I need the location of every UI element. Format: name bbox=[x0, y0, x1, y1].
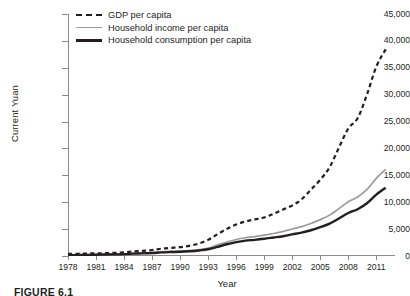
series-line-2 bbox=[68, 169, 386, 255]
series-line-1 bbox=[68, 49, 386, 254]
legend-item-label: Household income per capita bbox=[108, 23, 228, 33]
legend-item-label: GDP per capita bbox=[108, 10, 171, 20]
legend-swatch-icon bbox=[76, 22, 102, 34]
x-tick-label: 2011 bbox=[356, 262, 396, 272]
plot-area bbox=[68, 14, 395, 256]
x-axis-title-text: Year bbox=[217, 278, 236, 289]
chart-lines bbox=[68, 14, 395, 256]
legend-swatch-icon bbox=[76, 34, 102, 46]
figure-caption: FIGURE 6.1 bbox=[14, 286, 73, 296]
chart-legend: GDP per capitaHousehold income per capit… bbox=[76, 9, 251, 47]
figure-container: Current Yuan 05,00010,00015,00020,00025,… bbox=[0, 0, 410, 296]
legend-item-1: GDP per capita bbox=[76, 9, 251, 22]
legend-item-label: Household consumption per capita bbox=[108, 35, 251, 45]
legend-item-3: Household consumption per capita bbox=[76, 34, 251, 47]
series-line-3 bbox=[68, 188, 386, 255]
legend-swatch-icon bbox=[76, 9, 102, 21]
y-axis-title: Current Yuan bbox=[9, 64, 20, 164]
legend-item-2: Household income per capita bbox=[76, 22, 251, 35]
